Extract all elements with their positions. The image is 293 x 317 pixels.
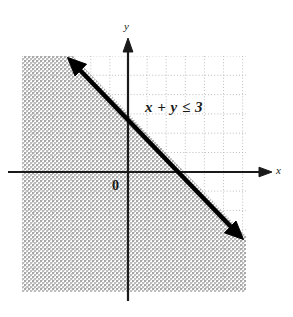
shaded-solution-region	[22, 56, 250, 292]
y-axis-label: y	[124, 20, 129, 32]
inequality-label: x + y ≤ 3	[145, 99, 203, 116]
graph-canvas	[0, 0, 293, 317]
solution-region-group	[22, 56, 250, 292]
x-axis-arrowhead	[259, 167, 272, 177]
x-axis-label: x	[276, 164, 281, 176]
origin-label: 0	[112, 178, 119, 194]
y-axis-arrowhead	[123, 38, 133, 52]
inequality-graph-figure: y x 0 x + y ≤ 3	[0, 0, 293, 317]
